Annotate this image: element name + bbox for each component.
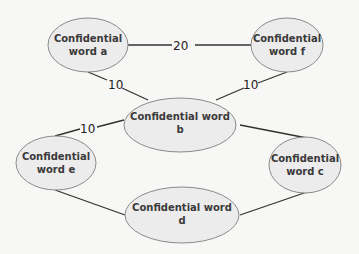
node-f-line2: word f [269,46,306,57]
node-b: Confidential word b [124,98,236,152]
edge-weight-f-b: 10 [243,78,258,92]
node-b-line1: Confidential word [130,111,230,122]
edge-e-b: 10 [55,120,124,136]
node-d-line1: Confidential word [132,202,232,213]
edge-e-d [55,190,125,215]
node-a: Confidential word a [48,18,128,72]
node-b-line2: b [176,124,183,135]
node-e-line2: word e [37,164,76,175]
node-e-line1: Confidential [22,151,90,162]
node-a-line1: Confidential [54,33,122,44]
node-c-line1: Confidential [271,153,339,164]
edge-f-b: 10 [216,72,287,100]
edge-d-c [240,192,307,215]
edge-weight-e-b: 10 [80,122,95,136]
edge-a-f: 20 [125,39,252,53]
edge-weight-a-b: 10 [108,78,123,92]
node-a-line2: word a [69,46,107,57]
edge-a-b: 10 [88,72,148,100]
node-e: Confidential word e [16,136,96,190]
node-d: Confidential word d [125,187,239,243]
node-c: Confidential word c [269,137,341,193]
edge-weight-a-f: 20 [173,39,188,53]
node-f: Confidential word f [251,18,323,72]
node-d-line2: d [178,215,185,226]
graph-diagram: 20 10 10 10 Confidential word a Confiden… [0,0,359,254]
node-c-line2: word c [286,166,324,177]
node-f-line1: Confidential [253,33,321,44]
edge-b-c [240,125,307,138]
